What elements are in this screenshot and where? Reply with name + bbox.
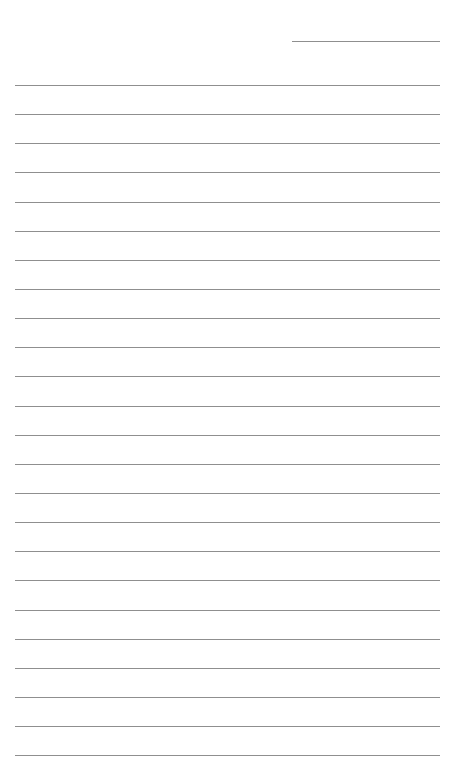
ruled-line[interactable] [15,202,440,231]
date-line [292,41,440,42]
ruled-line[interactable] [15,639,440,668]
ruled-line[interactable] [15,114,440,143]
ruled-line[interactable] [15,435,440,464]
ruled-line[interactable] [15,260,440,289]
ruled-line[interactable] [15,376,440,405]
ruled-line[interactable] [15,726,440,755]
ruled-line[interactable] [15,347,440,376]
ruled-line[interactable] [15,522,440,551]
ruled-line[interactable] [15,668,440,697]
ruled-line[interactable] [15,610,440,639]
ruled-line[interactable] [15,697,440,726]
ruled-line[interactable] [15,85,440,114]
ruled-line[interactable] [15,231,440,260]
ruled-line[interactable] [15,580,440,609]
ruled-line[interactable] [15,551,440,580]
ruled-line[interactable] [15,493,440,522]
ruled-line[interactable] [15,143,440,172]
ruled-line[interactable] [15,406,440,435]
ruled-line[interactable] [15,172,440,201]
ruled-lines [15,85,440,758]
ruled-line[interactable] [15,318,440,347]
date-field[interactable] [296,24,436,40]
ruled-line[interactable] [15,464,440,493]
lined-page [0,0,457,758]
ruled-line[interactable] [15,289,440,318]
